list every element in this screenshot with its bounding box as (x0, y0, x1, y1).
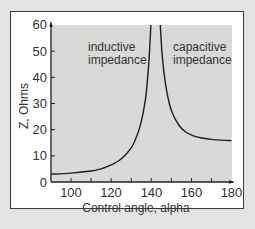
x-tick-label: 120 (100, 185, 122, 200)
x-axis-title: Control angle, alpha (82, 201, 190, 215)
y-tick-label: 60 (33, 17, 47, 32)
capacitive-label-line2: impedance (173, 53, 232, 67)
y-tick-label: 0 (40, 175, 47, 190)
y-tick-label: 40 (33, 70, 47, 85)
y-tick-label: 30 (33, 96, 47, 111)
capacitive-label-line1: capacitive (173, 40, 227, 54)
inductive-label-line1: inductive (88, 40, 136, 54)
impedance-chart: 0 10 20 30 40 50 60 100 120 140 160 180 … (0, 0, 255, 229)
y-axis-arrow-icon (49, 21, 52, 27)
x-tick-label: 100 (60, 185, 82, 200)
y-tick-label: 20 (33, 122, 47, 137)
y-tick-label: 50 (33, 44, 47, 59)
x-tick-label: 140 (141, 185, 163, 200)
inductive-label-line2: impedance (88, 53, 147, 67)
y-axis-title: Z, Ohms (17, 83, 31, 129)
y-tick-label: 10 (33, 148, 47, 163)
x-tick-label: 180 (221, 185, 243, 200)
x-tick-label: 160 (181, 185, 203, 200)
